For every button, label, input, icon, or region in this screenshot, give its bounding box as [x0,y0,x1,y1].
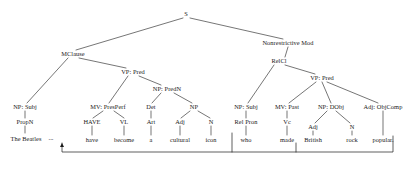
edge-relcl-npsubjr [248,65,274,103]
node-det: Det [146,104,155,110]
edge-nonrestrictive-relcl [285,47,288,57]
node-vc: Vc [283,119,291,125]
node-mv-presperf: MV: PresPerf [90,104,125,110]
edge-npdobj-n [336,111,350,123]
node-mclause: MClause [61,51,84,57]
edge-vppredl-mvpresperf [109,76,128,103]
terminal-cultural: cultural [170,137,190,143]
edge-mclause-vppred [79,58,126,68]
node-adj-objcomp: Adj: ObjComp [364,104,403,110]
node-n-right: N [350,124,355,130]
node-relcl: RelCl [271,58,286,64]
edge-relcl-vppredr [285,65,315,74]
node-adj-right: Adj [308,124,318,130]
terminal-icon: icon [205,137,216,143]
edge-nppredn-det [152,93,161,103]
terminal-become: become [114,137,134,143]
node-vp-pred-right: VP: Pred [310,75,334,81]
edge-mclause-npsubj [27,58,68,103]
node-vp-pred-left: VP: Pred [121,69,145,75]
edge-s-nonrestrictive [190,18,283,39]
edge-vppredr-mvpast [289,82,316,103]
edge-vppredr-adjobjcomp [327,82,378,103]
node-np-dobj: NP: DObj [318,104,344,110]
node-np-predn: NP: PredN [153,86,181,92]
node-art: Art [147,119,156,125]
node-np-inner: NP [190,104,198,110]
terminal-rock: rock [346,137,358,143]
terminal-popular: popular. [372,137,393,143]
terminal-have: have [86,137,98,143]
ellipsis-mark: ... [49,135,54,141]
syntax-tree-figure: S MClause Nonrestrictive Mod RelCl VP: P… [0,0,417,169]
coreference-arrowhead [60,143,64,147]
node-mv-past: MV: Past [275,104,299,110]
coreference-connector-line [62,136,393,152]
node-vl: VL [120,119,129,125]
edge-npdobj-adj [315,111,327,123]
node-np-subj-left: NP: Subj [13,104,37,110]
terminal-made: made [280,137,294,143]
terminal-the-beatles: The Beatles [11,136,42,142]
node-nonrestrictive-mod: Nonrestrictive Mod [262,40,313,46]
edge-nppredn-np [174,93,192,103]
edge-vppredl-nppredn [139,76,161,85]
edge-s-mclause [76,18,183,50]
node-propn: PropN [17,119,34,125]
terminal-who: who [240,137,251,143]
node-adj-left: Adj [175,119,185,125]
edge-vppredr-npdobj [322,82,331,103]
tree-branch-lines [0,0,417,169]
terminal-british: British [304,137,322,143]
node-s: S [184,11,188,17]
terminal-a: a [150,137,153,143]
node-rel-pron: Rel Pron [235,119,258,125]
node-have: HAVE [83,119,100,125]
node-np-subj-right: NP: Subj [234,104,258,110]
node-n-left: N [209,119,214,125]
